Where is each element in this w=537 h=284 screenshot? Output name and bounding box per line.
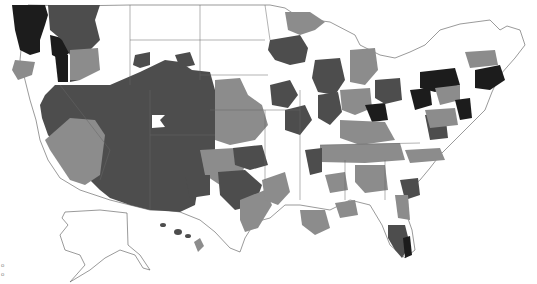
region-nc-light [405,148,445,163]
region-md-light [425,108,458,128]
corner-mark-2: o [1,270,4,279]
us-choropleth-map [0,0,537,284]
region-la-ms-light [335,200,358,218]
hawaii-islands [160,223,204,252]
region-la-light [300,210,330,235]
region-oh-dark [375,78,402,104]
alaska-outline [60,210,150,282]
corner-marks: o o [1,261,4,279]
region-tn-light [320,143,405,163]
corner-mark-1: o [1,261,4,270]
region-vt-light [465,50,498,68]
